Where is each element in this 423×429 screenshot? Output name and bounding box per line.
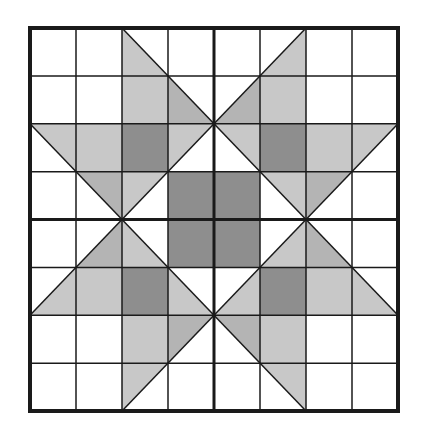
dark-square [260,124,306,172]
dark-square [214,220,260,268]
dark-square [168,172,214,220]
quilt-block-diagram [0,0,423,429]
dark-square [260,267,306,315]
dark-square [122,124,168,172]
dark-square [168,220,214,268]
dark-square [214,172,260,220]
dark-square [122,267,168,315]
